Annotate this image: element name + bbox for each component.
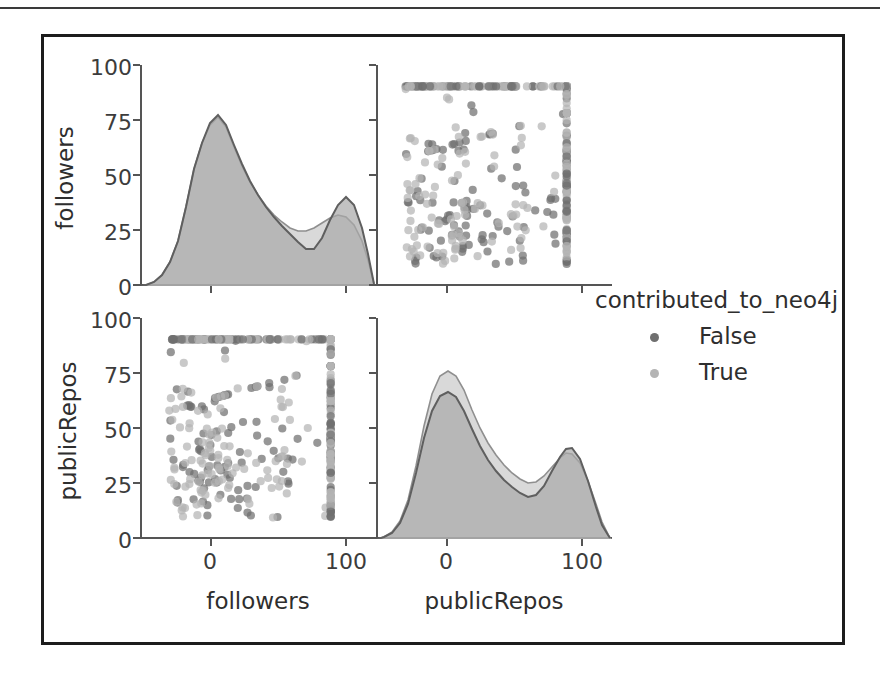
scatter-point [563, 179, 571, 187]
y-tick [133, 537, 140, 539]
scatter-point [563, 242, 571, 250]
scatter-point [199, 438, 207, 446]
panel-scatter-top-right [376, 65, 612, 286]
scatter-point [247, 511, 255, 519]
scatter-point [245, 500, 253, 508]
x-tick-label: 0 [195, 549, 225, 574]
scatter-point [271, 415, 279, 423]
scatter-point [183, 443, 191, 451]
scatter-point [517, 244, 525, 252]
scatter-point [435, 220, 443, 228]
scatter-point [176, 423, 184, 431]
scatter-point [403, 153, 411, 161]
scatter-point [283, 460, 291, 468]
scatter-point [215, 335, 223, 343]
scatter-point [437, 237, 445, 245]
scatter-point [166, 435, 174, 443]
scatter-point [550, 231, 558, 239]
legend-item-true[interactable]: True [595, 359, 825, 387]
y-tick-label: 50 [80, 418, 132, 443]
y-tick [133, 229, 140, 231]
x-tick-label: 100 [316, 549, 376, 574]
scatter-bottom-left-svg [140, 318, 376, 539]
scatter-point [327, 508, 335, 516]
scatter-point [490, 151, 498, 159]
y-tick [369, 427, 376, 429]
scatter-point [439, 260, 447, 268]
scatter-point [480, 238, 488, 246]
scatter-point [169, 456, 177, 464]
scatter-point [305, 335, 313, 343]
y-tick [369, 482, 376, 484]
y-tick [133, 64, 140, 66]
scatter-point [266, 335, 274, 343]
scatter-point [540, 82, 548, 90]
legend-label-false: False [699, 323, 757, 349]
scatter-point [167, 394, 175, 402]
scatter-point [519, 257, 527, 265]
page-top-rule [0, 7, 880, 9]
scatter-point [428, 214, 436, 222]
scatter-point [203, 511, 211, 519]
scatter-point [215, 464, 223, 472]
scatter-point [239, 335, 247, 343]
kde-publicrepos-svg [376, 318, 612, 539]
scatter-point [221, 355, 229, 363]
scatter-point [180, 359, 188, 367]
scatter-point [474, 252, 482, 260]
scatter-point [315, 335, 323, 343]
scatter-point [407, 207, 415, 215]
scatter-point [194, 407, 202, 415]
scatter-point [199, 460, 207, 468]
scatter-point [521, 188, 529, 196]
scatter-point [304, 424, 312, 432]
scatter-point [490, 163, 498, 171]
y-tick [133, 174, 140, 176]
scatter-point [492, 82, 500, 90]
legend-item-false[interactable]: False [595, 323, 825, 351]
scatter-point [450, 198, 458, 206]
scatter-point [471, 205, 479, 213]
scatter-point [406, 186, 414, 194]
figure-frame: 100 75 50 25 0 followers 100 75 50 2 [41, 34, 845, 645]
scatter-point [445, 95, 453, 103]
scatter-point [421, 190, 429, 198]
scatter-point [459, 199, 467, 207]
scatter-point [404, 226, 412, 234]
scatter-point [313, 439, 321, 447]
y-tick [133, 427, 140, 429]
scatter-point [495, 219, 503, 227]
scatter-point [327, 439, 335, 447]
scatter-point [193, 511, 201, 519]
y-tick [369, 64, 376, 66]
scatter-point [455, 133, 463, 141]
y-tick-label: 0 [80, 275, 132, 300]
scatter-point [265, 379, 273, 387]
scatter-point [221, 391, 229, 399]
x-axis-label-followers: followers [178, 588, 338, 614]
scatter-point [462, 221, 470, 229]
scatter-point [523, 82, 531, 90]
scatter-point [277, 396, 285, 404]
scatter-point [423, 200, 431, 208]
scatter-point [467, 101, 475, 109]
scatter-point [475, 82, 483, 90]
scatter-point [177, 392, 185, 400]
scatter-point [252, 418, 260, 426]
scatter-point [204, 410, 212, 418]
scatter-point [252, 459, 260, 467]
legend-marker-true-icon [650, 369, 659, 378]
scatter-point [277, 403, 285, 411]
panel-followers-kde [140, 65, 376, 286]
scatter-point [327, 387, 335, 395]
scatter-point [563, 189, 571, 197]
scatter-point [216, 404, 224, 412]
scatter-point [286, 416, 294, 424]
scatter-point [234, 504, 242, 512]
scatter-point [181, 483, 189, 491]
scatter-point [425, 147, 433, 155]
scatter-point [279, 468, 287, 476]
scatter-point [507, 246, 515, 254]
scatter-point [550, 188, 558, 196]
scatter-point [429, 192, 437, 200]
